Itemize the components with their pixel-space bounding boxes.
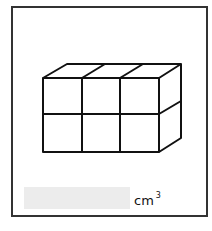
unit-text: cm bbox=[134, 193, 154, 208]
answer-input[interactable] bbox=[24, 187, 130, 209]
top-face bbox=[43, 64, 181, 78]
cuboid-drawing bbox=[43, 64, 181, 152]
top-divider-1 bbox=[82, 64, 105, 78]
side-mid-line bbox=[159, 101, 181, 114]
top-divider-2 bbox=[120, 64, 143, 78]
unit-label: cm3 bbox=[134, 190, 161, 209]
unit-exponent: 3 bbox=[156, 191, 161, 200]
